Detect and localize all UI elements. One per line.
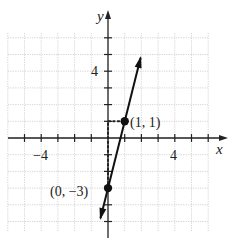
tick-label-x-4: 4: [170, 148, 177, 163]
tick-label-x-neg4: −4: [33, 148, 48, 163]
line-arrow-down-icon: [100, 208, 107, 220]
y-axis-label: y: [95, 8, 104, 24]
line-arrow-up-icon: [135, 56, 142, 68]
y-axis-arrow-icon: [105, 10, 111, 19]
tick-label-y-4: 4: [91, 64, 98, 79]
coordinate-plane: y x −4 4 4 (1, 1) (0, −3): [0, 0, 234, 238]
point-label-1-1: (1, 1): [130, 115, 161, 131]
point-1-1: [121, 117, 129, 125]
x-axis-label: x: [215, 141, 223, 157]
point-label-0-neg3: (0, −3): [50, 184, 89, 200]
point-0-neg3: [104, 184, 112, 192]
